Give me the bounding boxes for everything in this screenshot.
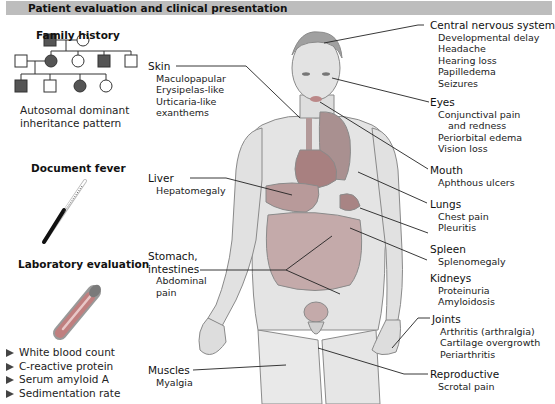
label-eyes: Eyes Conjunctival pain and redness Perio… <box>430 96 522 155</box>
pedigree-male-unaffected <box>125 55 137 67</box>
pedigree-male-affected <box>98 55 110 67</box>
lab-test-item: White blood count <box>6 346 120 360</box>
triangle-bullet-icon <box>6 376 14 384</box>
thermometer-icon <box>44 181 85 242</box>
leader-cns <box>324 25 424 43</box>
test-tube-icon <box>60 282 103 333</box>
label-skin: Skin Maculopapular Erysipelas-like Urtic… <box>148 60 226 119</box>
lab-test-item: C-reactive protein <box>6 360 120 374</box>
family-history-title: Family history <box>36 29 120 41</box>
lab-test-item: Sedimentation rate <box>6 387 120 401</box>
pedigree-chart <box>15 34 137 92</box>
pedigree-female-unaffected <box>100 80 112 92</box>
label-muscles: Muscles Myalgia <box>148 364 193 388</box>
pedigree-male-unaffected <box>15 55 27 67</box>
inheritance-caption-line1: Autosomal dominant <box>20 104 129 117</box>
label-kidneys: Kidneys Proteinuria Amyloidosis <box>430 272 495 308</box>
lab-test-item: Serum amyloid A <box>6 373 120 387</box>
triangle-bullet-icon <box>6 390 14 398</box>
pedigree-female-affected <box>74 80 86 92</box>
label-liver: Liver Hepatomegaly <box>148 172 226 196</box>
pedigree-male-affected <box>15 80 27 92</box>
label-spleen: Spleen Splenomegaly <box>430 243 506 267</box>
label-joints: Joints Arthritis (arthralgia) Cartilage … <box>432 313 540 360</box>
lab-title: Laboratory evaluation <box>18 258 149 270</box>
pedigree-female-unaffected <box>72 55 84 67</box>
pedigree-female-affected <box>45 55 57 67</box>
pedigree-male-unaffected <box>44 80 56 92</box>
triangle-bullet-icon <box>6 363 14 371</box>
inheritance-caption-line2: inheritance pattern <box>20 117 121 130</box>
label-lungs: Lungs Chest pain Pleuritis <box>430 198 489 234</box>
label-mouth: Mouth Aphthous ulcers <box>430 164 515 188</box>
fever-title: Document fever <box>31 162 126 174</box>
lab-test-list: White blood count C-reactive protein Ser… <box>6 346 120 400</box>
label-cns: Central nervous system Developmental del… <box>430 19 555 89</box>
label-stomach-intestines: Stomach, intestines Abdominal pain <box>148 250 207 298</box>
triangle-bullet-icon <box>6 349 14 357</box>
label-reproductive: Reproductive Scrotal pain <box>430 368 499 392</box>
leader-eyes <box>332 78 429 102</box>
